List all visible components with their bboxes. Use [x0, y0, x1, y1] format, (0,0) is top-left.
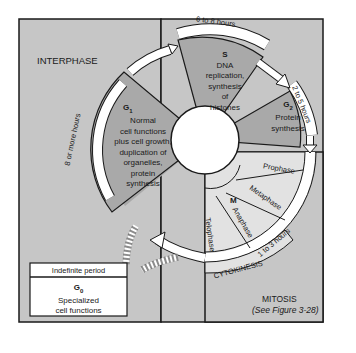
- prophase-label: Prophase: [262, 161, 295, 175]
- g0-header: Indefinite period: [30, 266, 127, 275]
- interphase-label: INTERPHASE: [37, 55, 98, 66]
- g1-text: G1 Normal cell functions plus cell growt…: [103, 103, 183, 190]
- anaphase-label: Anaphase: [231, 206, 256, 240]
- s-text: S DNA replication, synthesis of histones: [190, 50, 260, 113]
- g1-duration-label: 8 or more hours: [63, 113, 83, 167]
- metaphase-label: Metaphase: [248, 183, 284, 212]
- m-duration-label: 1 to 3 hours: [256, 226, 292, 258]
- telophase-label: Telophase: [203, 217, 217, 252]
- mitosis-reference: (See Figure 3-28): [252, 305, 319, 315]
- m-label: M: [230, 196, 237, 205]
- cytokinesis-label: CYTOKINESIS: [213, 259, 264, 281]
- g0-text: G0 Specialized cell functions: [30, 283, 127, 316]
- s-duration-label: 6 to 8 hours: [196, 14, 236, 28]
- mitosis-label: MITOSIS: [262, 294, 297, 304]
